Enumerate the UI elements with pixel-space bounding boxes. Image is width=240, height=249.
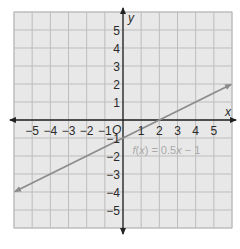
y-axis-label: y <box>127 11 135 25</box>
x-tick-label: −5 <box>25 124 39 138</box>
x-tick-label: 2 <box>156 124 163 138</box>
y-tick-label: 5 <box>113 24 120 38</box>
origin-label: O <box>112 123 121 137</box>
x-tick-label: −4 <box>43 124 57 138</box>
x-tick-label: 4 <box>192 124 199 138</box>
y-tick-label: 2 <box>113 78 120 92</box>
y-tick-label: −2 <box>106 150 120 164</box>
x-axis-label: x <box>224 105 232 119</box>
coordinate-plane: −5−4−3−2−11234554321−1−2−3−4−5 x y O f(x… <box>0 0 240 249</box>
y-tick-label: −5 <box>106 204 120 218</box>
y-tick-label: −4 <box>106 186 120 200</box>
x-tick-label: 1 <box>138 124 145 138</box>
y-tick-label: 4 <box>113 42 120 56</box>
y-tick-label: 3 <box>113 60 120 74</box>
function-label: f(x) = 0.5x − 1 <box>132 144 200 156</box>
y-tick-label: 1 <box>113 96 120 110</box>
x-tick-label: −3 <box>62 124 76 138</box>
x-tick-label: 3 <box>174 124 181 138</box>
x-tick-label: 5 <box>210 124 217 138</box>
y-tick-label: −3 <box>106 168 120 182</box>
x-tick-label: −2 <box>80 124 94 138</box>
